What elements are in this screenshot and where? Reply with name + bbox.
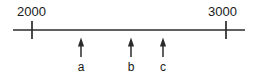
pointer-arrow-a: [78, 38, 84, 58]
arrow-label-c: c: [157, 61, 169, 73]
pointer-arrow-c: [160, 38, 166, 58]
arrow-label-a: a: [75, 61, 87, 73]
arrow-label-b: b: [125, 61, 137, 73]
tick-label-right: 3000: [208, 5, 237, 18]
number-line-figure: 2000 3000 a b c: [0, 0, 255, 83]
pointer-arrow-b: [128, 38, 134, 58]
tick-label-left: 2000: [17, 5, 46, 18]
